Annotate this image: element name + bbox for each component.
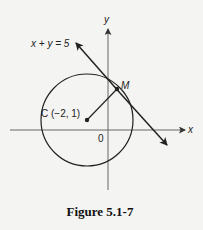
y-axis-label: y bbox=[103, 14, 110, 25]
center-point bbox=[85, 118, 89, 122]
figure-diagram: y x 0 x + y = 5 M C (−2, 1) Figure 5.1-7 bbox=[0, 0, 203, 230]
tangent-line-lower bbox=[120, 93, 167, 145]
line-equation-label: x + y = 5 bbox=[30, 38, 70, 49]
x-axis-label: x bbox=[187, 124, 194, 135]
radius-segment bbox=[87, 89, 117, 120]
tangent-line bbox=[76, 43, 120, 93]
center-label: C (−2, 1) bbox=[41, 108, 80, 119]
tangent-point bbox=[115, 87, 119, 91]
figure-caption: Figure 5.1-7 bbox=[67, 204, 134, 219]
origin-label: 0 bbox=[98, 133, 104, 144]
point-m-label: M bbox=[121, 80, 130, 91]
